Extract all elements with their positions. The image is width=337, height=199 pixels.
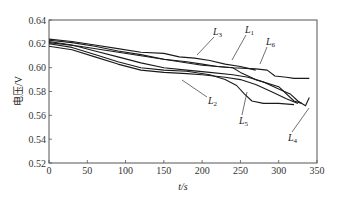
leader-line-l6 [260, 47, 267, 64]
x-axis-title: t/s [178, 181, 188, 192]
leader-line-l1 [232, 35, 246, 60]
series-line-l2 [49, 46, 298, 103]
y-tick-label: 0.54 [29, 134, 47, 145]
voltage-time-chart: 0.520.540.560.580.600.620.64 05010015020… [0, 0, 337, 199]
y-tick-label: 0.52 [29, 158, 47, 169]
x-tick-label: 50 [82, 165, 92, 176]
series-line-l1 [49, 40, 302, 103]
x-tick-label: 200 [195, 165, 210, 176]
series-label-l6: L6 [265, 36, 276, 49]
x-tick-label: 350 [310, 165, 325, 176]
x-tick-label: 0 [47, 165, 52, 176]
plot-frame [49, 20, 317, 163]
series-label-l5: L5 [238, 115, 249, 128]
x-tick-label: 300 [271, 165, 286, 176]
series-label-l2: L2 [207, 95, 218, 108]
x-tick-label: 150 [156, 165, 171, 176]
y-tick-label: 0.60 [29, 62, 47, 73]
y-axis-title: 电压/V [12, 75, 24, 106]
series-labels: L1L2L3L4L5L6 [182, 24, 309, 145]
x-tick-label: 100 [118, 165, 133, 176]
leader-line-l5 [242, 92, 247, 115]
x-axis-ticks: 050100150200250300350 [47, 160, 325, 176]
series-label-l4: L4 [287, 132, 298, 145]
y-axis-ticks: 0.520.540.560.580.600.620.64 [29, 15, 53, 169]
leader-line-l4 [292, 108, 309, 132]
series-line-l5 [49, 44, 294, 105]
y-tick-label: 0.56 [29, 110, 47, 121]
leader-line-l2 [182, 80, 207, 97]
y-tick-label: 0.62 [29, 38, 47, 49]
series-curves [49, 39, 309, 106]
y-tick-label: 0.58 [29, 86, 47, 97]
y-tick-label: 0.64 [29, 15, 47, 26]
x-tick-label: 250 [233, 165, 248, 176]
leader-line-l3 [197, 37, 214, 55]
